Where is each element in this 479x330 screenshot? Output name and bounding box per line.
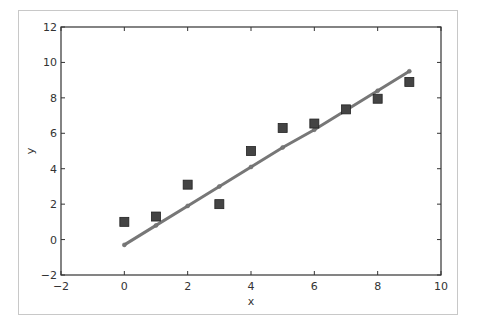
scatter-point [152, 212, 161, 221]
y-tick-label: 12 [43, 21, 57, 34]
fit-point [154, 223, 158, 227]
scatter-point [310, 119, 319, 128]
x-tick-label: 4 [248, 280, 255, 293]
y-tick-label: 8 [50, 92, 57, 105]
scatter-point [120, 217, 129, 226]
scatter-point [247, 147, 256, 156]
scatter-point [342, 105, 351, 114]
x-tick-label: 10 [434, 280, 448, 293]
scatter-layer [120, 77, 414, 226]
fit-line [124, 71, 409, 245]
x-axis-label: x [248, 295, 255, 308]
x-tick-label: 0 [121, 280, 128, 293]
scatter-point [278, 123, 287, 132]
scatter-point [215, 200, 224, 209]
y-tick-label: 4 [50, 163, 57, 176]
fit-point [186, 204, 190, 208]
fit-point [249, 165, 253, 169]
scatter-point [183, 180, 192, 189]
scatter-point [405, 77, 414, 86]
y-tick-label: 0 [50, 234, 57, 247]
chart: −20246810−2024681012 x y [0, 0, 479, 330]
y-tick-label: 2 [50, 198, 57, 211]
fit-point [217, 184, 221, 188]
y-axis-label: y [24, 147, 37, 154]
x-tick-label: 2 [184, 280, 191, 293]
y-tick-label: 10 [43, 56, 57, 69]
fit-line-layer [122, 69, 411, 247]
x-tick-label: 8 [374, 280, 381, 293]
fit-point [407, 69, 411, 73]
fit-point [122, 243, 126, 247]
scatter-point [373, 94, 382, 103]
ticks: −20246810−2024681012 [41, 21, 448, 293]
y-tick-label: −2 [41, 269, 57, 282]
fit-point [376, 89, 380, 93]
x-tick-label: 6 [311, 280, 318, 293]
fit-point [281, 145, 285, 149]
y-tick-label: 6 [50, 127, 57, 140]
